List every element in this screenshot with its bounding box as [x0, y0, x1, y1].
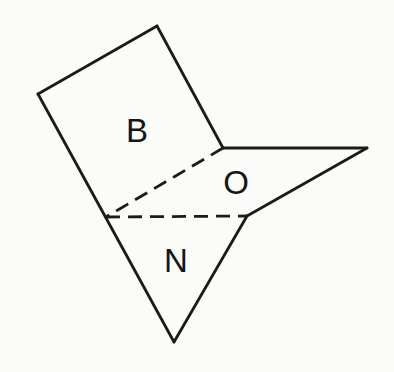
figure-edges [38, 26, 367, 342]
planes-figure: B O N [0, 0, 394, 372]
label-plane-o: O [223, 164, 249, 201]
label-plane-b: B [126, 112, 148, 149]
hidden-edge-upper [106, 148, 223, 217]
plane-n-right-edge [174, 216, 247, 342]
plane-b-right-edge [157, 26, 223, 148]
plane-b-top-edge [38, 26, 157, 94]
plane-o-front-edge [247, 148, 367, 216]
hidden-edge-lower [106, 216, 247, 217]
label-plane-n: N [164, 242, 188, 279]
diagram-canvas: B O N [0, 0, 394, 372]
